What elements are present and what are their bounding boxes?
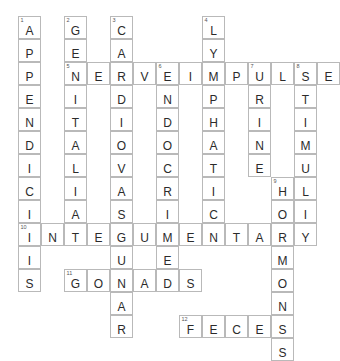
crossword-cell[interactable]: I: [18, 200, 41, 223]
crossword-cell[interactable]: U: [110, 246, 133, 269]
crossword-cell[interactable]: U: [294, 154, 317, 177]
crossword-cell[interactable]: R: [110, 315, 133, 338]
crossword-cell[interactable]: M: [271, 246, 294, 269]
crossword-cell[interactable]: 11G: [64, 269, 87, 292]
crossword-cell[interactable]: Y: [294, 223, 317, 246]
crossword-cell[interactable]: N: [248, 131, 271, 154]
crossword-cell[interactable]: 8S: [294, 62, 317, 85]
crossword-cell[interactable]: L: [294, 177, 317, 200]
crossword-cell[interactable]: S: [271, 315, 294, 338]
crossword-cell[interactable]: E: [87, 62, 110, 85]
crossword-cell[interactable]: A: [133, 269, 156, 292]
crossword-cell[interactable]: O: [271, 269, 294, 292]
crossword-cell[interactable]: E: [317, 62, 340, 85]
crossword-cell[interactable]: R: [248, 85, 271, 108]
crossword-cell[interactable]: I: [179, 62, 202, 85]
crossword-cell[interactable]: P: [18, 62, 41, 85]
crossword-cell[interactable]: D: [110, 85, 133, 108]
crossword-cell[interactable]: A: [64, 200, 87, 223]
crossword-cell[interactable]: A: [248, 223, 271, 246]
crossword-cell[interactable]: R: [271, 223, 294, 246]
crossword-cell[interactable]: 7U: [248, 62, 271, 85]
crossword-cell[interactable]: H: [202, 108, 225, 131]
crossword-cell[interactable]: I: [18, 246, 41, 269]
crossword-cell[interactable]: T: [64, 223, 87, 246]
crossword-cell[interactable]: N: [18, 108, 41, 131]
crossword-cell[interactable]: N: [202, 223, 225, 246]
crossword-cell[interactable]: S: [18, 269, 41, 292]
crossword-cell[interactable]: N: [110, 269, 133, 292]
crossword-cell[interactable]: A: [110, 292, 133, 315]
crossword-cell[interactable]: I: [110, 108, 133, 131]
crossword-cell[interactable]: Y: [202, 39, 225, 62]
crossword-cell[interactable]: C: [225, 315, 248, 338]
crossword-cell[interactable]: E: [179, 223, 202, 246]
crossword-cell[interactable]: O: [110, 131, 133, 154]
crossword-cell[interactable]: N: [156, 85, 179, 108]
crossword-cell[interactable]: 6E: [156, 62, 179, 85]
crossword-cell[interactable]: A: [64, 131, 87, 154]
crossword-cell[interactable]: D: [156, 269, 179, 292]
crossword-cell[interactable]: P: [225, 62, 248, 85]
crossword-cell[interactable]: O: [271, 200, 294, 223]
crossword-cell[interactable]: R: [110, 62, 133, 85]
crossword-cell[interactable]: S: [110, 200, 133, 223]
crossword-cell[interactable]: I: [64, 85, 87, 108]
crossword-cell[interactable]: C: [18, 177, 41, 200]
crossword-cell[interactable]: C: [156, 154, 179, 177]
crossword-cell[interactable]: E: [248, 154, 271, 177]
crossword-cell[interactable]: 12F: [179, 315, 202, 338]
crossword-cell[interactable]: P: [202, 85, 225, 108]
crossword-cell[interactable]: E: [87, 223, 110, 246]
crossword-cell[interactable]: E: [18, 85, 41, 108]
crossword-cell[interactable]: I: [294, 200, 317, 223]
crossword-cell[interactable]: D: [18, 131, 41, 154]
crossword-cell[interactable]: E: [156, 246, 179, 269]
crossword-cell[interactable]: T: [294, 85, 317, 108]
crossword-cell[interactable]: T: [202, 154, 225, 177]
crossword-cell[interactable]: 2G: [64, 16, 87, 39]
crossword-cell[interactable]: 4L: [202, 16, 225, 39]
crossword-cell[interactable]: A: [110, 177, 133, 200]
crossword-cell[interactable]: 3C: [110, 16, 133, 39]
crossword-cell[interactable]: P: [18, 39, 41, 62]
crossword-cell[interactable]: L: [64, 154, 87, 177]
crossword-cell[interactable]: V: [133, 62, 156, 85]
crossword-cell[interactable]: I: [294, 108, 317, 131]
crossword-cell[interactable]: 10I: [18, 223, 41, 246]
crossword-cell[interactable]: S: [179, 269, 202, 292]
crossword-cell[interactable]: N: [271, 292, 294, 315]
crossword-cell[interactable]: A: [202, 131, 225, 154]
crossword-cell[interactable]: T: [225, 223, 248, 246]
crossword-cell[interactable]: M: [202, 62, 225, 85]
crossword-cell[interactable]: R: [156, 177, 179, 200]
crossword-cell[interactable]: L: [271, 62, 294, 85]
crossword-cell[interactable]: E: [202, 315, 225, 338]
crossword-cell[interactable]: U: [133, 223, 156, 246]
crossword-cell[interactable]: N: [41, 223, 64, 246]
crossword-cell[interactable]: I: [156, 200, 179, 223]
crossword-cell[interactable]: D: [156, 108, 179, 131]
crossword-cell[interactable]: M: [294, 131, 317, 154]
crossword-cell[interactable]: 9H: [271, 177, 294, 200]
cell-letter: R: [157, 186, 178, 198]
crossword-cell[interactable]: M: [156, 223, 179, 246]
crossword-cell[interactable]: V: [110, 154, 133, 177]
crossword-cell[interactable]: A: [110, 39, 133, 62]
crossword-cell[interactable]: E: [248, 315, 271, 338]
crossword-cell[interactable]: 5N: [64, 62, 87, 85]
crossword-cell[interactable]: T: [64, 108, 87, 131]
crossword-cell[interactable]: G: [110, 223, 133, 246]
crossword-cell[interactable]: I: [248, 108, 271, 131]
crossword-cell[interactable]: E: [64, 39, 87, 62]
crossword-cell[interactable]: C: [202, 200, 225, 223]
cell-letter: R: [111, 71, 132, 83]
cell-letter: S: [272, 347, 293, 359]
crossword-cell[interactable]: S: [271, 338, 294, 361]
crossword-cell[interactable]: I: [64, 177, 87, 200]
crossword-cell[interactable]: I: [18, 154, 41, 177]
crossword-cell[interactable]: O: [156, 131, 179, 154]
crossword-cell[interactable]: O: [87, 269, 110, 292]
crossword-cell[interactable]: 1A: [18, 16, 41, 39]
crossword-cell[interactable]: I: [202, 177, 225, 200]
